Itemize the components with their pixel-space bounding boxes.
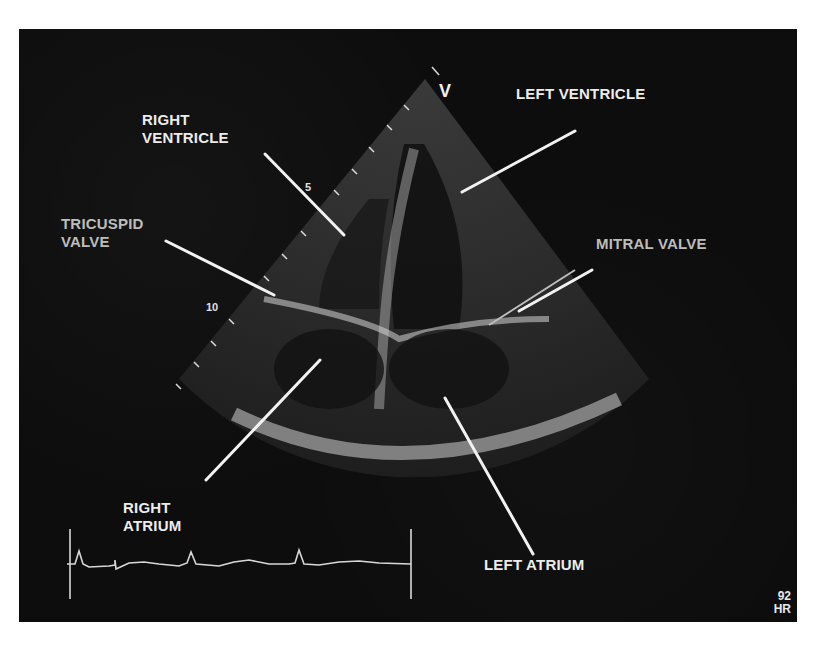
depth-label-10: 10: [206, 301, 218, 313]
label-line: ATRIUM: [123, 517, 181, 535]
ra-cavity: [274, 329, 384, 409]
ecg-trace: [67, 529, 411, 599]
label-line: TRICUSPID: [61, 215, 144, 233]
label-mitral-valve: MITRAL VALVE: [596, 235, 707, 253]
label-line: VALVE: [61, 233, 144, 251]
orientation-marker: V: [439, 81, 451, 102]
label-right-ventricle: RIGHT VENTRICLE: [142, 111, 229, 147]
label-line: VENTRICLE: [142, 129, 229, 147]
label-left-atrium: LEFT ATRIUM: [484, 556, 585, 574]
label-left-ventricle: LEFT VENTRICLE: [516, 85, 645, 103]
heart-rate-unit: HR: [774, 603, 791, 616]
heart-rate-readout: 92 HR: [774, 590, 791, 616]
label-line: RIGHT: [123, 499, 181, 517]
label-tricuspid-valve: TRICUSPID VALVE: [61, 215, 144, 251]
label-right-atrium: RIGHT ATRIUM: [123, 499, 181, 535]
depth-label-5: 5: [305, 181, 311, 193]
label-line: RIGHT: [142, 111, 229, 129]
la-cavity: [389, 329, 509, 409]
ultrasound-frame: V 5 10 RIGHT VENTRICLE LEFT VENTRICLE TR…: [19, 29, 797, 622]
